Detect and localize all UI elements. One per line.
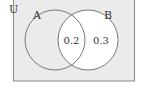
venn-diagram: U A B 0.2 0.3: [0, 0, 142, 98]
set-b-label: B: [104, 9, 112, 22]
set-a-label: A: [32, 9, 42, 22]
b-only-value: 0.3: [93, 35, 109, 46]
universe-label: U: [9, 3, 18, 16]
intersection-value: 0.2: [64, 35, 80, 46]
